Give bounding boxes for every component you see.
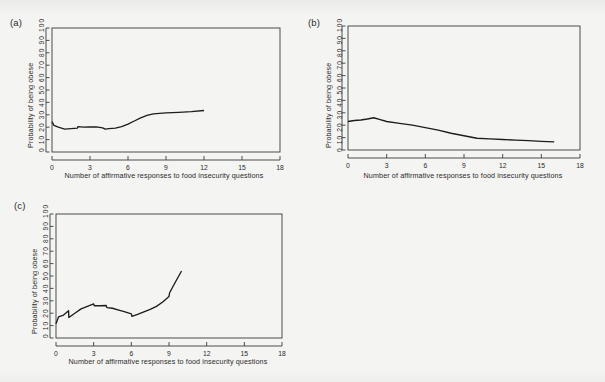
x-tick-label: 6 xyxy=(129,350,133,357)
x-tick-label: 18 xyxy=(276,164,284,171)
data-curve xyxy=(348,118,554,142)
x-tick-label: 3 xyxy=(92,350,96,357)
x-tick-label: 9 xyxy=(167,350,171,357)
x-tick-label: 3 xyxy=(88,164,92,171)
panel-a: (a) Probability of being obese 0 10 20 3… xyxy=(0,0,300,190)
panel-b: (b) Probability of being obese 0 10 20 3… xyxy=(300,0,605,190)
x-tick-label: 15 xyxy=(238,164,246,171)
x-tick-label: 15 xyxy=(241,350,249,357)
x-tick-label: 12 xyxy=(203,350,211,357)
x-tick-label: 9 xyxy=(164,164,168,171)
x-tick-label: 0 xyxy=(50,164,54,171)
data-curve xyxy=(56,271,182,324)
x-tick-label: 18 xyxy=(576,162,584,169)
x-tick-label: 0 xyxy=(54,350,58,357)
x-tick-label: 3 xyxy=(385,162,389,169)
x-tick-label: 6 xyxy=(423,162,427,169)
panel-c-plot xyxy=(0,190,300,382)
panel-a-plot xyxy=(0,0,300,190)
panel-c-x-axis-title: Number of affirmative responses to food … xyxy=(52,357,284,366)
data-curve xyxy=(52,110,204,129)
panel-a-x-axis-title: Number of affirmative responses to food … xyxy=(48,171,280,180)
x-tick-label: 6 xyxy=(126,164,130,171)
panel-c: (c) Probability of being obese 0 10 20 3… xyxy=(0,190,300,382)
x-tick-label: 12 xyxy=(200,164,208,171)
x-tick-label: 12 xyxy=(499,162,507,169)
x-tick-label: 0 xyxy=(346,162,350,169)
x-tick-label: 15 xyxy=(538,162,546,169)
x-tick-label: 9 xyxy=(462,162,466,169)
panel-b-x-axis-title: Number of affirmative responses to food … xyxy=(344,171,582,180)
x-tick-label: 18 xyxy=(278,350,286,357)
